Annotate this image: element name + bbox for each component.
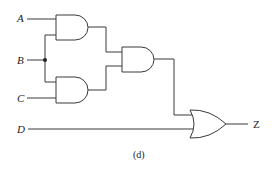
input-label-c: C xyxy=(17,92,25,104)
input-label-a: A xyxy=(16,12,24,24)
and-gate-1 xyxy=(56,15,88,40)
wire-and3-out xyxy=(154,59,193,115)
or-gate xyxy=(190,110,226,138)
wire-and2-out xyxy=(88,66,122,90)
input-label-b: B xyxy=(17,54,24,66)
figure-caption: (d) xyxy=(133,149,145,161)
and-gate-2 xyxy=(56,77,88,103)
input-label-d: D xyxy=(16,123,25,135)
wire-and1-out xyxy=(88,27,122,52)
junction-dot xyxy=(43,58,47,62)
output-label-z: Z xyxy=(253,118,260,130)
logic-circuit-diagram: A B C D Z (d) xyxy=(0,0,275,173)
and-gate-3 xyxy=(122,47,154,72)
